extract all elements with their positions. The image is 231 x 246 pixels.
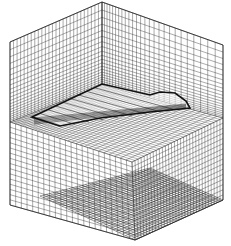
cfd-mesh-diagram xyxy=(0,0,231,246)
